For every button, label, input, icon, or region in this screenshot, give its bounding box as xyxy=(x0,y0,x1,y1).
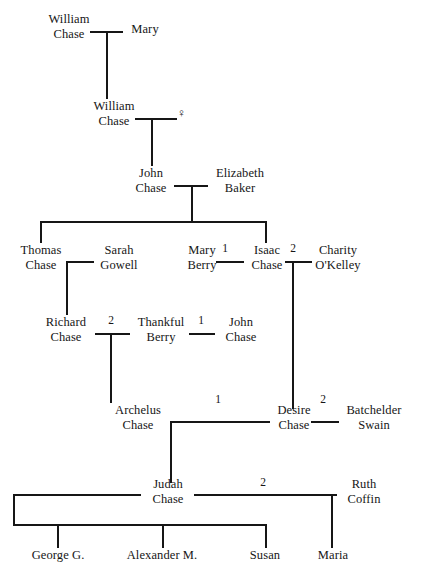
person-name-line2: Chase xyxy=(83,114,145,129)
descent-line-gen3-siblings xyxy=(191,185,193,222)
person-william-chase-1: William Chase xyxy=(38,12,100,41)
marriage-ordinal-isaac-charity: 2 xyxy=(283,243,303,255)
person-name-line1: Mary xyxy=(131,22,158,36)
person-name-line1: Richard xyxy=(46,315,86,329)
descent-line-judah-children xyxy=(13,494,15,525)
person-ruth-coffin: Ruth Coffin xyxy=(338,477,390,506)
marriage-line-archelus-desire xyxy=(170,421,270,423)
person-mary: Mary xyxy=(122,22,168,37)
marriage-line-richard-thankful xyxy=(95,333,130,335)
person-elizabeth-baker: Elizabeth Baker xyxy=(205,166,275,195)
person-charity-okelley: Charity O'Kelley xyxy=(307,243,369,272)
person-name-line2: Swain xyxy=(336,418,412,433)
person-name-line1: Thankful xyxy=(138,315,185,329)
person-john-chase-2: John Chase xyxy=(214,315,268,344)
sibling-drop-susan xyxy=(265,524,267,548)
sibling-drop-isaac-chase xyxy=(265,221,267,243)
sibling-drop-alexander-m xyxy=(162,524,164,548)
person-name-line2: Chase xyxy=(11,258,71,273)
person-name-line1: Batchelder xyxy=(346,403,401,417)
sibling-drop-george-g xyxy=(57,524,59,548)
marriage-line-judah-left xyxy=(13,494,141,496)
person-name-line1: Elizabeth xyxy=(216,166,264,180)
person-maria: Maria xyxy=(311,548,355,563)
person-name-line1: Charity xyxy=(319,243,357,257)
marriage-line-thankful-john xyxy=(189,333,215,335)
person-name-line1: Sarah xyxy=(105,243,134,257)
person-name-line1: Maria xyxy=(318,548,348,562)
person-thankful-berry: Thankful Berry xyxy=(130,315,192,344)
person-name-line1: Isaac xyxy=(254,243,280,257)
person-batchelder-swain: Batchelder Swain xyxy=(336,403,412,432)
marriage-line-william-unknown xyxy=(135,118,177,120)
person-name-line1: George G. xyxy=(32,548,85,562)
marriage-ordinal-desire-batchelder: 2 xyxy=(313,394,333,406)
person-alexander-m: Alexander M. xyxy=(118,548,206,563)
person-john-chase-1: John Chase xyxy=(124,166,178,195)
marriage-line-desire-batchelder xyxy=(311,421,339,423)
marriage-line-judah-ruth xyxy=(194,494,337,496)
family-tree-diagram: William Chase Mary William Chase ♀ John … xyxy=(0,0,425,587)
person-name-line2: Chase xyxy=(124,181,178,196)
marriage-ordinal-judah-ruth: 2 xyxy=(253,477,273,489)
descent-line-thomas-richard xyxy=(66,261,68,315)
marriage-line-thomas-sarah xyxy=(68,261,94,263)
person-name-line1: Archelus xyxy=(115,403,161,417)
person-name-line2: Berry xyxy=(130,330,192,345)
sibling-bar-gen4 xyxy=(40,221,266,223)
person-name-line2: Gowell xyxy=(91,258,147,273)
person-name-line1: John xyxy=(229,315,253,329)
descent-line-isaac-desire xyxy=(292,261,294,409)
person-judah-chase: Judah Chase xyxy=(140,477,196,506)
person-richard-chase: Richard Chase xyxy=(36,315,96,344)
descent-line-richard-archelus xyxy=(110,333,112,403)
person-sarah-gowell: Sarah Gowell xyxy=(91,243,147,272)
person-william-chase-2: William Chase xyxy=(83,99,145,128)
person-name-line1: Ruth xyxy=(352,477,377,491)
person-name-line2: Coffin xyxy=(338,492,390,507)
person-thomas-chase: Thomas Chase xyxy=(11,243,71,272)
person-name-line2: Chase xyxy=(214,330,268,345)
person-archelus-chase: Archelus Chase xyxy=(105,403,171,432)
person-name-line1: Alexander M. xyxy=(127,548,198,562)
person-name-line1: Thomas xyxy=(21,243,62,257)
female-symbol-unknown-wife: ♀ xyxy=(177,107,186,119)
person-name-line2: Chase xyxy=(105,418,171,433)
descent-line-gen1-gen2 xyxy=(106,31,108,99)
marriage-ordinal-mary-isaac: 1 xyxy=(215,243,235,255)
descent-line-gen2-gen3 xyxy=(151,118,153,166)
person-name-line2: Chase xyxy=(243,258,291,273)
person-name-line2: Chase xyxy=(140,492,196,507)
person-name-line1: Susan xyxy=(250,548,280,562)
descent-line-ruth-maria xyxy=(331,494,333,548)
marriage-ordinal-thankful-john-value: 1 xyxy=(191,315,211,327)
person-susan: Susan xyxy=(240,548,290,563)
person-name-line1: Desire xyxy=(277,403,310,417)
descent-line-archelus-judah xyxy=(170,421,172,483)
marriage-ordinal-richard-thankful: 2 xyxy=(101,315,121,327)
person-name-line1: Judah xyxy=(153,477,183,491)
person-name-line1: William xyxy=(93,99,134,113)
person-name-line1: John xyxy=(139,166,163,180)
person-name-line2: O'Kelley xyxy=(307,258,369,273)
person-name-line2: Chase xyxy=(269,418,319,433)
sibling-bar-gen8 xyxy=(13,524,266,526)
person-name-line2: Berry xyxy=(178,258,226,273)
person-desire-chase: Desire Chase xyxy=(269,403,319,432)
person-name-line2: Chase xyxy=(36,330,96,345)
person-name-line1: Mary xyxy=(188,243,215,257)
person-george-g: George G. xyxy=(23,548,93,563)
marriage-ordinal-archelus-desire: 1 xyxy=(208,394,228,406)
person-name-line2: Chase xyxy=(38,27,100,42)
marriage-line-mary-isaac xyxy=(216,261,244,263)
person-name-line1: ♀ xyxy=(177,106,186,120)
sibling-drop-thomas-chase xyxy=(40,221,42,243)
person-name-line2: Baker xyxy=(205,181,275,196)
person-name-line1: William xyxy=(48,12,89,26)
